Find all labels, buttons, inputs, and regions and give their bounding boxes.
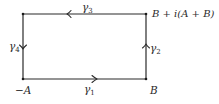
- gamma-2-sub: 2: [156, 48, 160, 56]
- vertex-top-right: [145, 13, 148, 16]
- label-gamma-2: γ2: [150, 43, 161, 56]
- label-b-plus-i-a-plus-b: B + i(A + B): [152, 9, 214, 19]
- label-gamma-1: γ1: [84, 84, 95, 97]
- vertex-bottom-left: [22, 78, 25, 81]
- gamma-4-sub: 4: [15, 46, 19, 54]
- label-b: B: [150, 85, 158, 96]
- label-gamma-3: γ3: [82, 2, 93, 15]
- gamma-3-sub: 3: [88, 7, 92, 15]
- gamma-1-sub: 1: [90, 89, 94, 97]
- label-gamma-4: γ4: [9, 41, 20, 54]
- vertex-bottom-right: [145, 78, 148, 81]
- label-minus-a: −A: [15, 85, 31, 96]
- vertex-top-left: [22, 13, 25, 16]
